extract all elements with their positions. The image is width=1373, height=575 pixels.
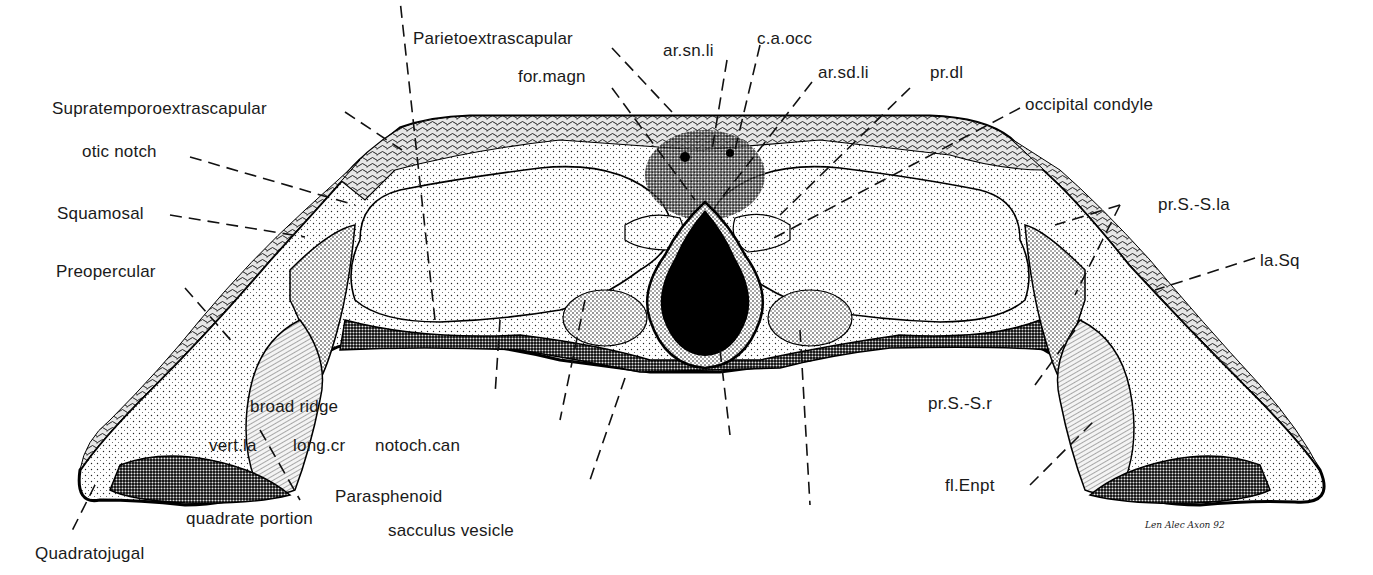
label-supratemporoextrascapular: Supratemporoextrascapular [52, 100, 267, 117]
label-pr-s-s-la: pr.S.-S.la [1158, 196, 1230, 213]
right-sacculus-bulge [768, 290, 852, 346]
label-long-cr: long.cr [293, 437, 345, 454]
left-foramen-dot [680, 152, 690, 162]
label-ar-sd-li: ar.sd.li [818, 64, 869, 81]
label-vert-la: vert.la [209, 437, 257, 454]
label-quadratojugal: Quadratojugal [35, 545, 144, 562]
left-sacculus-bulge [563, 290, 647, 346]
label-c-a-occ: c.a.occ [757, 30, 812, 47]
label-notoch-can: notoch.can [375, 437, 460, 454]
label-pr-s-s-r: pr.S.-S.r [928, 395, 992, 412]
label-la-sq: la.Sq [1260, 252, 1300, 269]
artist-signature: Len Alec Axon 92 [1145, 520, 1225, 530]
label-sacculus-vesicle: sacculus vesicle [388, 522, 514, 539]
label-pr-dl: pr.dl [930, 64, 963, 81]
label-fl-enpt: fl.Enpt [945, 477, 995, 494]
label-quadrate-portion: quadrate portion [186, 510, 313, 527]
skull-occipital-view-figure: Parietoextrascapular ar.sn.li c.a.occ fo… [0, 0, 1373, 575]
skull-illustration [0, 0, 1373, 575]
label-for-magn: for.magn [518, 68, 586, 85]
label-otic-notch: otic notch [82, 143, 157, 160]
label-ar-sn-li: ar.sn.li [663, 42, 714, 59]
label-broad-ridge: broad ridge [250, 398, 338, 415]
label-preopercular: Preopercular [56, 263, 156, 280]
right-foramen-dot [726, 149, 734, 157]
label-squamosal: Squamosal [57, 205, 144, 222]
label-occipital-condyle: occipital condyle [1025, 96, 1153, 113]
label-parietoextrascapular: Parietoextrascapular [413, 30, 573, 47]
label-parasphenoid: Parasphenoid [335, 488, 442, 505]
